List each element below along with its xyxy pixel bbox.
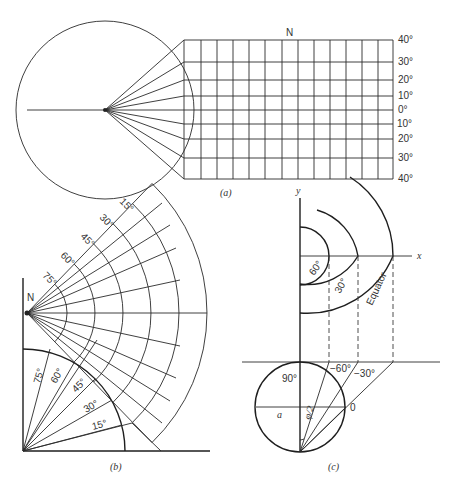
x-axis-label: x [416,250,422,261]
lat-label-10n: 10° [398,90,413,101]
arc-label-equator: Equator [364,270,389,307]
panel-a: N 40° 30° 20° 10° 0° 10° 20° 30° 40° (a) [16,21,413,199]
arc-label-30: 30° [98,212,116,230]
label-minus60: −60° [330,363,351,374]
north-label-a: N [286,27,293,38]
arc-labels-c: 60° 30° Equator [307,258,389,306]
caption-a: (a) [220,187,232,199]
panel-c: y x 60° 30° Equator 90° −60° [242,177,440,473]
projection-center-point [103,108,107,112]
panel-b: N 15° 30° 45° 60° 75° 75° 60° 45° 30° 15… [23,184,210,474]
label-zero: 0 [350,402,356,413]
north-point-b [25,311,30,316]
label-a: a [277,409,282,420]
lat-label-10s: 10° [397,118,412,129]
map-projection-diagram: N 40° 30° 20° 10° 0° 10° 20° 30° 40° (a) [0,0,456,486]
ray-label-75: 75° [31,367,46,384]
arc-label-15: 15° [118,196,136,214]
lat-label-0: 0° [398,104,408,115]
lat-label-30n: 30° [398,56,413,67]
label-90: 90° [282,373,297,384]
lat-label-20n: 20° [398,74,413,85]
latitude-labels: 40° 30° 20° 10° 0° 10° 20° 30° 40° [397,34,413,184]
quadrant-ray-labels: 75° 60° 45° 30° 15° [31,366,108,432]
lat-label-20s: 20° [398,133,413,144]
projection-rays [105,40,184,179]
ray-label-45: 45° [70,376,88,394]
origin-rays [23,340,161,451]
conic-fan [27,184,207,443]
arc-label-60: 60° [59,250,77,268]
lat-label-40s: 40° [398,173,413,184]
arc-label-30-c: 30° [332,276,349,295]
cylindrical-grid [184,40,393,179]
lat-label-40n: 40° [398,34,413,45]
north-label-b: N [27,292,34,303]
fan-arc-labels: 15° 30° 45° 60° 75° [41,196,136,288]
caption-b: (b) [110,461,122,473]
caption-c: (c) [328,461,340,473]
label-minus30: −30° [354,368,375,379]
lat-label-30s: 30° [398,152,413,163]
arc-label-45: 45° [79,231,97,249]
ray-label-30: 30° [82,398,101,415]
y-axis-label: y [295,185,301,196]
